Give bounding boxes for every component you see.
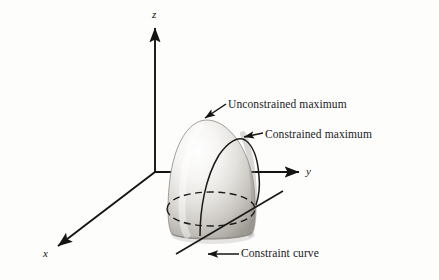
axis-label-y: y [306,166,311,177]
annotation-constraint-curve: Constraint curve [241,248,319,260]
leader-constrained [244,133,263,137]
axis-x-line [58,172,155,246]
annotation-constrained-maximum: Constrained maximum [265,129,372,141]
figure-container: Unconstrained maximum Constrained maximu… [0,0,439,280]
axis-label-z: z [152,9,156,20]
leader-unconstrained-arrow [205,104,226,118]
figure-graphic [0,0,439,280]
leader-unconstrained [205,104,226,118]
annotation-unconstrained-maximum: Unconstrained maximum [228,99,347,111]
leader-constrained-arrow [244,133,263,137]
axis-label-x: x [43,248,48,259]
axis-x [58,172,155,246]
